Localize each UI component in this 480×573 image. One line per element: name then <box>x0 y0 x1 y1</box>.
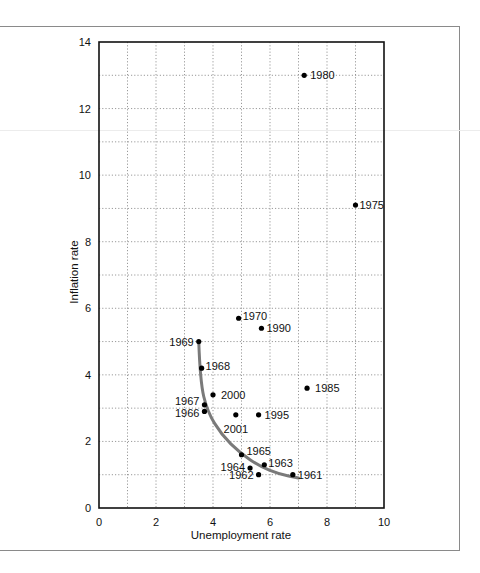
y-tick-label: 8 <box>85 236 91 248</box>
grid <box>99 42 384 508</box>
x-tick-label: 10 <box>378 516 390 528</box>
point-label: 1967 <box>175 395 199 407</box>
point-label: 1964 <box>221 461 245 473</box>
point-label: 1966 <box>175 407 199 419</box>
point-label: 1995 <box>265 409 289 421</box>
point-marker <box>262 462 267 467</box>
point-marker <box>353 203 358 208</box>
y-tick-label: 10 <box>79 169 91 181</box>
point-marker <box>210 392 215 397</box>
y-tick-label: 4 <box>85 369 91 381</box>
data-point: 1995 <box>256 409 289 421</box>
data-point: 1969 <box>169 336 201 348</box>
data-point: 1980 <box>302 69 335 81</box>
point-marker <box>290 472 295 477</box>
data-point: 2000 <box>210 389 245 401</box>
point-marker <box>202 402 207 407</box>
point-marker <box>304 386 309 391</box>
point-marker <box>196 339 201 344</box>
y-tick-label: 14 <box>79 36 91 48</box>
data-point: 1975 <box>353 199 384 211</box>
point-label: 1980 <box>310 69 334 81</box>
point-label: 1965 <box>247 445 271 457</box>
x-tick-label: 4 <box>210 516 216 528</box>
x-tick-label: 0 <box>96 516 102 528</box>
y-tick-label: 0 <box>85 502 91 514</box>
x-tick-label: 6 <box>267 516 273 528</box>
y-tick-label: 12 <box>79 103 91 115</box>
point-marker <box>302 73 307 78</box>
x-axis-label: Unemployment rate <box>191 529 291 541</box>
point-marker <box>233 412 238 417</box>
data-point: 1990 <box>259 322 291 334</box>
data-point: 1968 <box>199 360 230 372</box>
phillips-curve-chart: 024681002468101214 196119621963196419651… <box>0 0 480 573</box>
point-marker <box>199 366 204 371</box>
point-marker <box>236 316 241 321</box>
point-label: 1963 <box>268 457 292 469</box>
point-label: 1961 <box>298 469 322 481</box>
point-marker <box>259 326 264 331</box>
point-label: 1975 <box>360 199 384 211</box>
point-label: 1968 <box>206 360 230 372</box>
x-tick-label: 8 <box>324 516 330 528</box>
point-marker <box>256 412 261 417</box>
y-tick-label: 6 <box>85 302 91 314</box>
point-label: 2000 <box>221 389 245 401</box>
data-point: 1965 <box>239 445 271 458</box>
data-point: 2001 <box>224 412 248 435</box>
point-marker <box>202 409 207 414</box>
point-label: 1970 <box>243 310 267 322</box>
data-point: 1970 <box>236 310 267 322</box>
point-marker <box>256 472 261 477</box>
y-axis-label: Inflation rate <box>68 240 80 303</box>
point-label: 1985 <box>315 382 339 394</box>
point-label: 1990 <box>266 322 290 334</box>
data-point: 1963 <box>262 457 293 469</box>
point-label: 2001 <box>224 423 248 435</box>
tick-labels: 024681002468101214 <box>79 36 390 528</box>
data-point: 1966 <box>175 407 207 419</box>
x-tick-label: 2 <box>153 516 159 528</box>
y-tick-label: 2 <box>85 435 91 447</box>
data-point: 1967 <box>175 395 207 408</box>
point-marker <box>247 465 252 470</box>
point-label: 1969 <box>169 336 193 348</box>
point-marker <box>239 452 244 457</box>
data-point: 1961 <box>290 469 322 481</box>
data-point: 1985 <box>304 382 339 394</box>
